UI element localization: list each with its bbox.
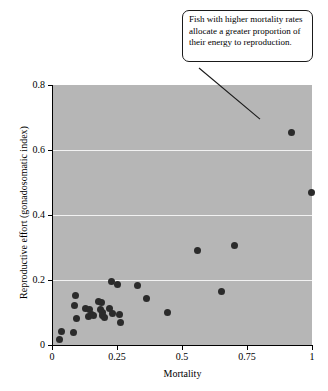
data-point [58,328,65,335]
y-axis-line [52,85,53,346]
x-tick-4 [312,346,313,350]
gridline-y-0.6 [52,150,312,151]
annotation-callout: Fish with higher mortality rates allocat… [182,10,313,62]
data-point [109,310,116,317]
annotation-text: Fish with higher mortality rates allocat… [189,14,307,49]
data-point [134,282,141,289]
x-axis-title: Mortality [52,368,313,379]
data-point [194,247,201,254]
data-point [218,288,225,295]
data-point [98,299,105,306]
data-point [231,242,238,249]
y-tick-0 [48,345,52,346]
data-point [308,189,315,196]
gridline-y-0.4 [52,215,312,216]
data-point [73,315,80,322]
x-tick-label-1: 0.25 [102,351,132,363]
y-axis-title: Reproductive effort (gonadosomatic index… [18,113,29,313]
data-point [56,336,63,343]
data-point [116,311,123,318]
data-point [164,309,171,316]
x-tick-label-0: 0 [37,351,67,363]
data-point [70,329,77,336]
x-tick-label-3: 0.75 [232,351,262,363]
scatter-plot-figure: 00.250.50.751 00.20.40.60.8 Mortality Re… [0,0,328,391]
data-point [72,292,79,299]
x-tick-3 [247,346,248,350]
data-point [114,281,121,288]
data-point [90,312,97,319]
data-point [143,295,150,302]
y-tick-3 [48,150,52,151]
y-tick-label-0: 0 [14,340,45,350]
y-tick-label-4: 0.8 [14,80,45,90]
gridline-y-0.2 [52,280,312,281]
plot-area [52,85,312,345]
x-tick-label-4: 1 [297,351,327,363]
data-point [101,314,108,321]
x-tick-label-2: 0.5 [167,351,197,363]
x-tick-0 [52,346,53,350]
data-point [288,129,295,136]
y-tick-1 [48,280,52,281]
data-point [71,302,78,309]
y-tick-2 [48,215,52,216]
x-tick-1 [117,346,118,350]
data-point [117,319,124,326]
y-tick-4 [48,85,52,86]
x-tick-2 [182,346,183,350]
